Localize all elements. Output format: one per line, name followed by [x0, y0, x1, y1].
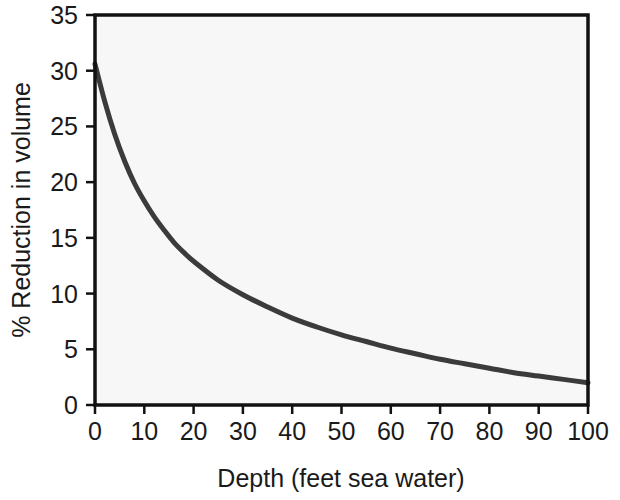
y-tick-label: 35 — [50, 1, 78, 29]
line-chart: 0102030405060708090100 05101520253035 De… — [0, 0, 620, 500]
x-axis-title: Depth (feet sea water) — [217, 464, 464, 492]
x-tick-label: 90 — [525, 417, 553, 445]
x-tick-label: 0 — [88, 417, 102, 445]
y-axis-title: % Reduction in volume — [7, 82, 35, 338]
x-tick-label: 100 — [567, 417, 609, 445]
y-tick-label: 25 — [50, 112, 78, 140]
y-tick-label: 5 — [64, 335, 78, 363]
plot-area-background — [95, 15, 588, 405]
x-tick-label: 40 — [278, 417, 306, 445]
y-tick-label: 30 — [50, 57, 78, 85]
y-tick-label: 20 — [50, 168, 78, 196]
x-tick-label: 60 — [377, 417, 405, 445]
y-tick-label: 0 — [64, 391, 78, 419]
chart-figure: 0102030405060708090100 05101520253035 De… — [0, 0, 620, 500]
x-tick-label: 70 — [426, 417, 454, 445]
x-tick-label: 80 — [475, 417, 503, 445]
y-tick-label: 15 — [50, 224, 78, 252]
x-tick-label: 30 — [229, 417, 257, 445]
y-tick-label: 10 — [50, 280, 78, 308]
x-tick-label: 50 — [328, 417, 356, 445]
x-tick-label: 10 — [130, 417, 158, 445]
x-tick-label: 20 — [180, 417, 208, 445]
